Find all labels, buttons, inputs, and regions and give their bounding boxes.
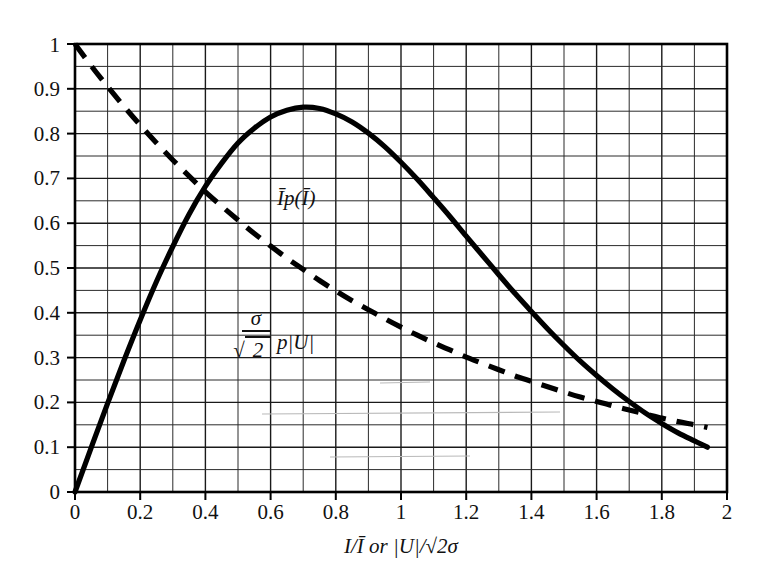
y-tick-label: 0.5 [34, 256, 60, 280]
y-tick-label: 0.6 [34, 211, 60, 235]
x-tick-label: 0.2 [127, 500, 153, 524]
x-tick-label: 1.4 [518, 500, 545, 524]
solid-curve-label-suffix: p|U| [275, 330, 314, 354]
solid-curve-label-denominator: 2 [253, 338, 264, 362]
dashed-curve-label: Īp(Ī) [276, 186, 315, 210]
x-tick-label: 1.6 [583, 500, 609, 524]
y-tick-label: 0.9 [34, 77, 60, 101]
y-axis-tick-labels: 0 0.1 0.2 0.3 0.4 0.5 0.6 0.7 0.8 0.9 1 [34, 33, 61, 505]
y-tick-label: 0 [50, 480, 61, 504]
radical-icon: √ [233, 338, 245, 362]
x-axis-title: I/Ī or |U|/√2σ [343, 534, 460, 558]
x-tick-label: 1.2 [453, 500, 479, 524]
x-axis-tick-labels: 0 0.2 0.4 0.6 0.8 1 1.2 1.4 1.6 1.8 2 [70, 500, 733, 524]
y-tick-label: 0.4 [34, 301, 61, 325]
y-tick-label: 0.3 [34, 346, 60, 370]
y-tick-label: 0.8 [34, 122, 60, 146]
y-tick-label: 1 [50, 33, 61, 57]
x-tick-label: 0.4 [192, 500, 219, 524]
solid-curve-label-numerator: σ [251, 306, 263, 330]
chart-svg: 0 0.2 0.4 0.6 0.8 1 1.2 1.4 1.6 1.8 2 0 … [0, 0, 767, 572]
x-tick-label: 1.8 [649, 500, 675, 524]
x-tick-label: 0.8 [323, 500, 349, 524]
y-tick-label: 0.7 [34, 166, 60, 190]
y-tick-label: 0.1 [34, 435, 60, 459]
y-tick-label: 0.2 [34, 390, 60, 414]
x-tick-label: 0 [70, 500, 81, 524]
x-tick-label: 1 [396, 500, 407, 524]
chart-figure: 0 0.2 0.4 0.6 0.8 1 1.2 1.4 1.6 1.8 2 0 … [0, 0, 767, 572]
x-tick-label: 2 [722, 500, 733, 524]
x-tick-label: 0.6 [257, 500, 283, 524]
